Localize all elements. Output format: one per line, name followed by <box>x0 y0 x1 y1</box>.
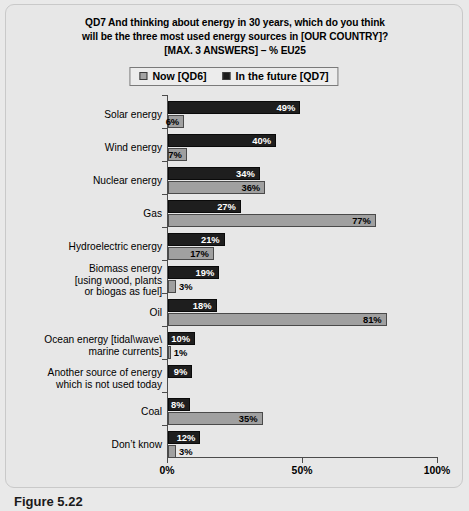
bar-value-label: 1% <box>174 348 188 358</box>
bar-value-label: 21% <box>201 235 220 245</box>
legend-label-now: Now [QD6] <box>152 70 206 82</box>
legend-item-future[interactable]: In the future [QD7] <box>223 70 329 82</box>
bar-now[interactable]: 3% <box>168 280 176 293</box>
category-label: Coal <box>12 406 162 418</box>
category-label-line: Another source of energy <box>12 367 162 379</box>
bar-now[interactable]: 36% <box>168 181 265 194</box>
bar-future[interactable]: 49% <box>168 101 300 114</box>
bar-group: 12%3% <box>168 431 458 459</box>
chart-plot-area: Solar energy49%6%Wind energy40%7%Nuclear… <box>6 93 464 489</box>
bar-group: 34%36% <box>168 167 458 195</box>
bar-group: 19%3% <box>168 266 458 294</box>
category-label-line: Wind energy <box>12 142 162 154</box>
category-label-line: Ocean energy [tidal\wave\ <box>12 334 162 346</box>
bar-now[interactable]: 3% <box>168 445 176 458</box>
category-label: Nuclear energy <box>12 175 162 187</box>
bar-now[interactable]: 7% <box>168 148 187 161</box>
bar-value-label: 49% <box>277 103 296 113</box>
category-label: Another source of energywhich is not use… <box>12 367 162 390</box>
category-label-line: Don’t know <box>12 439 162 451</box>
x-axis-tick <box>167 457 168 463</box>
bar-group: 27%77% <box>168 200 458 228</box>
chart-row: Don’t know12%3% <box>6 425 464 465</box>
bar-now[interactable]: 6% <box>168 115 184 128</box>
bar-value-label: 3% <box>179 282 193 292</box>
bar-future[interactable]: 27% <box>168 200 241 213</box>
bar-future[interactable]: 19% <box>168 266 219 279</box>
bar-value-label: 40% <box>252 136 271 146</box>
bar-future[interactable]: 18% <box>168 299 217 312</box>
category-label-line: Oil <box>12 307 162 319</box>
category-label: Oil <box>12 307 162 319</box>
x-axis-label: 50% <box>292 465 313 476</box>
x-axis-tick <box>302 457 303 463</box>
bar-value-label: 81% <box>363 315 382 325</box>
bar-future[interactable]: 10% <box>168 332 195 345</box>
bar-value-label: 10% <box>171 334 190 344</box>
y-axis-tick <box>162 161 168 162</box>
bar-now[interactable]: 17% <box>168 247 214 260</box>
bar-group: 40%7% <box>168 134 458 162</box>
category-label: Solar energy <box>12 109 162 121</box>
category-label-line: Nuclear energy <box>12 175 162 187</box>
category-label-line: Solar energy <box>12 109 162 121</box>
bar-group: 10%1% <box>168 332 458 360</box>
category-label: Don’t know <box>12 439 162 451</box>
bar-group: 9% <box>168 365 458 393</box>
figure-caption: Figure 5.22 <box>14 494 83 509</box>
category-label-line: Biomass energy <box>12 263 162 275</box>
bar-value-label: 36% <box>241 183 260 193</box>
bar-value-label: 7% <box>168 150 182 160</box>
category-label-line: [using wood, plants <box>12 274 162 286</box>
bar-group: 49%6% <box>168 101 458 129</box>
y-axis-tick <box>162 128 168 129</box>
chart-title: QD7 And thinking about energy in 30 year… <box>18 16 452 59</box>
bar-value-label: 8% <box>171 400 185 410</box>
y-axis-tick <box>162 95 168 96</box>
chart-title-line-2: will be the three most used energy sourc… <box>18 30 452 44</box>
chart-title-line-1: QD7 And thinking about energy in 30 year… <box>18 16 452 30</box>
category-label-line: Coal <box>12 406 162 418</box>
future-swatch-icon <box>223 72 231 80</box>
bar-future[interactable]: 9% <box>168 365 192 378</box>
y-axis-tick <box>162 293 168 294</box>
bar-future[interactable]: 40% <box>168 134 276 147</box>
bar-value-label: 9% <box>174 367 188 377</box>
bar-now[interactable]: 81% <box>168 313 387 326</box>
x-axis-label: 100% <box>424 465 451 476</box>
now-swatch-icon <box>139 72 147 80</box>
y-axis-tick <box>162 194 168 195</box>
chart-frame: QD7 And thinking about energy in 30 year… <box>5 4 463 488</box>
bar-group: 18%81% <box>168 299 458 327</box>
category-label-line: Gas <box>12 208 162 220</box>
bar-now[interactable]: 77% <box>168 214 376 227</box>
category-label: Wind energy <box>12 142 162 154</box>
bar-value-label: 12% <box>177 433 196 443</box>
chart-legend: Now [QD6] In the future [QD7] <box>129 67 338 86</box>
category-label: Ocean energy [tidal\wave\marine currents… <box>12 334 162 357</box>
bar-value-label: 35% <box>239 414 258 424</box>
bar-value-label: 3% <box>179 447 193 457</box>
y-axis-tick <box>162 425 168 426</box>
bar-group: 21%17% <box>168 233 458 261</box>
y-axis-tick <box>162 359 168 360</box>
category-label: Hydroelectric energy <box>12 241 162 253</box>
bar-future[interactable]: 34% <box>168 167 260 180</box>
bar-now[interactable]: 1% <box>168 346 171 359</box>
bar-future[interactable]: 21% <box>168 233 225 246</box>
category-label-line: marine currents] <box>12 346 162 358</box>
category-label: Gas <box>12 208 162 220</box>
y-axis-tick <box>162 260 168 261</box>
category-label-line: Hydroelectric energy <box>12 241 162 253</box>
bar-now[interactable]: 35% <box>168 412 263 425</box>
bar-future[interactable]: 12% <box>168 431 200 444</box>
bar-value-label: 18% <box>193 301 212 311</box>
bar-value-label: 27% <box>217 202 236 212</box>
y-axis-tick <box>162 326 168 327</box>
bar-value-label: 6% <box>166 117 180 127</box>
bar-group: 8%35% <box>168 398 458 426</box>
bar-future[interactable]: 8% <box>168 398 190 411</box>
category-label-line: which is not used today <box>12 379 162 391</box>
legend-item-now[interactable]: Now [QD6] <box>139 70 206 82</box>
bar-value-label: 34% <box>236 169 255 179</box>
